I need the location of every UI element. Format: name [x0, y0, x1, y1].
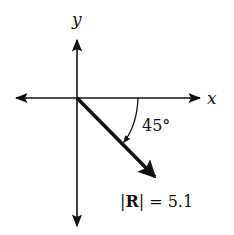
vector-symbol: R	[125, 192, 139, 211]
angle-arc	[124, 98, 138, 142]
magnitude-label: |R| = 5.1	[120, 192, 193, 211]
vector-diagram: y x 45° |R| = 5.1	[0, 0, 234, 235]
vector-r-arrow	[77, 98, 155, 177]
angle-label: 45°	[142, 116, 170, 135]
y-axis-label: y	[71, 9, 82, 29]
abs-bar-right: | = 5.1	[139, 192, 193, 211]
x-axis-label: x	[207, 88, 217, 108]
